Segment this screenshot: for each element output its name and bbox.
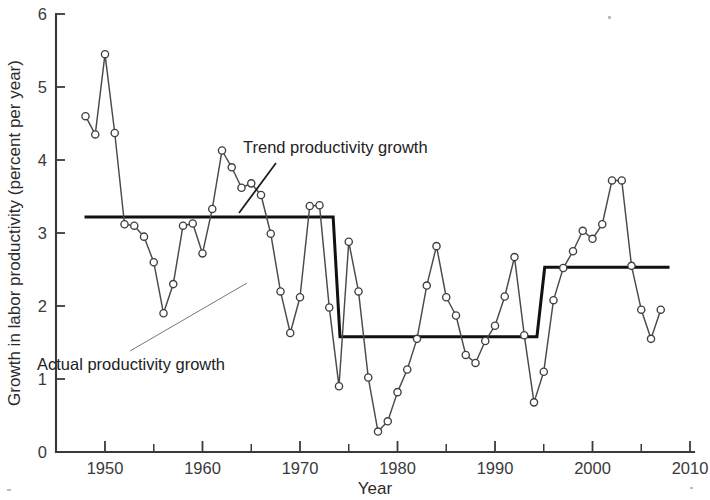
data-point-1954 xyxy=(140,233,147,240)
data-point-1997 xyxy=(560,264,567,271)
data-point-2002 xyxy=(608,177,615,184)
data-point-1973 xyxy=(326,304,333,311)
x-tick-label-1990: 1990 xyxy=(477,459,514,477)
data-point-1984 xyxy=(433,243,440,250)
data-point-1951 xyxy=(111,129,118,136)
x-tick-label-2000: 2000 xyxy=(574,459,611,477)
data-point-1961 xyxy=(209,205,216,212)
data-point-1980 xyxy=(394,389,401,396)
data-point-2000 xyxy=(589,235,596,242)
data-point-2006 xyxy=(647,335,654,342)
data-point-2004 xyxy=(628,262,635,269)
data-point-1970 xyxy=(296,294,303,301)
chart-background xyxy=(0,0,710,500)
data-point-1950 xyxy=(101,51,108,58)
data-point-1990 xyxy=(491,322,498,329)
y-tick-label-5: 5 xyxy=(38,78,47,96)
x-tick-label-2010: 2010 xyxy=(672,459,709,477)
data-point-1977 xyxy=(365,374,372,381)
data-point-1987 xyxy=(462,351,469,358)
y-tick-label-6: 6 xyxy=(38,5,47,23)
data-point-1992 xyxy=(511,253,518,260)
data-point-1981 xyxy=(404,366,411,373)
data-point-1979 xyxy=(384,418,391,425)
data-point-2007 xyxy=(657,306,664,313)
actual-annotation-label: Actual productivity growth xyxy=(37,355,225,373)
data-point-1978 xyxy=(374,428,381,435)
data-point-1985 xyxy=(443,294,450,301)
data-point-1965 xyxy=(248,180,255,187)
data-point-1948 xyxy=(82,113,89,120)
trend-annotation-label: Trend productivity growth xyxy=(243,138,428,156)
productivity-growth-chart: 0123456 1950196019701980199020002010 Yea… xyxy=(0,0,710,500)
data-point-1964 xyxy=(238,184,245,191)
data-point-2005 xyxy=(638,306,645,313)
x-tick-label-1950: 1950 xyxy=(87,459,124,477)
y-tick-label-2: 2 xyxy=(38,297,47,315)
data-point-1993 xyxy=(521,332,528,339)
data-point-1963 xyxy=(228,164,235,171)
data-point-1967 xyxy=(267,230,274,237)
data-point-1972 xyxy=(316,202,323,209)
data-point-1966 xyxy=(257,191,264,198)
data-point-1999 xyxy=(579,227,586,234)
y-axis-title: Growth in labor productivity (percent pe… xyxy=(5,60,24,406)
data-point-1953 xyxy=(131,222,138,229)
data-point-1995 xyxy=(540,368,547,375)
data-point-1959 xyxy=(189,220,196,227)
data-point-1976 xyxy=(355,288,362,295)
data-point-1986 xyxy=(452,312,459,319)
y-tick-label-4: 4 xyxy=(38,151,47,169)
data-point-2001 xyxy=(599,221,606,228)
data-point-1983 xyxy=(423,282,430,289)
chart-canvas: 0123456 1950196019701980199020002010 Yea… xyxy=(0,0,710,500)
data-point-1955 xyxy=(150,259,157,266)
data-point-1991 xyxy=(501,293,508,300)
x-axis-title: Year xyxy=(358,479,393,498)
data-point-1988 xyxy=(472,359,479,366)
data-point-1982 xyxy=(413,335,420,342)
data-point-1968 xyxy=(277,288,284,295)
data-point-1998 xyxy=(569,248,576,255)
data-point-1956 xyxy=(160,310,167,317)
x-tick-label-1960: 1960 xyxy=(184,459,221,477)
data-point-1962 xyxy=(218,147,225,154)
data-point-1975 xyxy=(345,238,352,245)
data-point-1971 xyxy=(306,202,313,209)
y-tick-label-0: 0 xyxy=(38,443,47,461)
y-tick-label-3: 3 xyxy=(38,224,47,242)
data-point-2003 xyxy=(618,177,625,184)
data-point-1969 xyxy=(287,329,294,336)
data-point-1974 xyxy=(335,383,342,390)
data-point-1960 xyxy=(199,250,206,257)
data-point-1957 xyxy=(170,281,177,288)
data-point-1952 xyxy=(121,221,128,228)
x-tick-label-1970: 1970 xyxy=(282,459,319,477)
data-point-1989 xyxy=(482,337,489,344)
x-tick-label-1980: 1980 xyxy=(379,459,416,477)
data-point-1958 xyxy=(179,222,186,229)
data-point-1996 xyxy=(550,297,557,304)
data-point-1994 xyxy=(530,399,537,406)
data-point-1949 xyxy=(92,131,99,138)
